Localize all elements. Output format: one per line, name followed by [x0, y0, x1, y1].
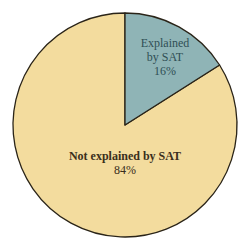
explained-label-line2: by SAT [147, 50, 184, 64]
explained-percent: 16% [154, 64, 176, 78]
pie-chart: Explained by SAT 16% Not explained by SA… [0, 0, 252, 250]
explained-label-line1: Explained [141, 36, 190, 50]
pie-slices [13, 13, 237, 237]
not-explained-percent: 84% [114, 163, 136, 177]
not-explained-label: Not explained by SAT [69, 149, 181, 163]
